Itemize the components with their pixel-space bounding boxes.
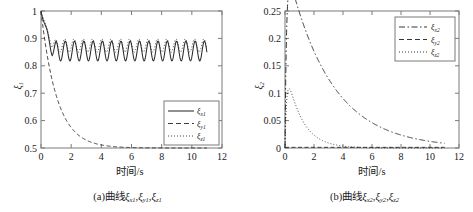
x-tick-label: 12	[217, 151, 227, 162]
panel-a-ylabel: ξ1	[12, 66, 24, 106]
y-tick-label: 0.05	[264, 115, 282, 126]
y-tick-label: 0.1	[269, 88, 282, 99]
x-tick-label: 6	[370, 151, 375, 162]
panel-b-ylabel: ξ2	[253, 66, 265, 106]
panel-a-caption: (a)曲线ξx1,ξy1,ξz1	[20, 188, 235, 203]
plot-a: 0246810120.50.60.70.80.91ξx1ξy1ξz1	[0, 0, 237, 178]
x-tick-label: 8	[159, 151, 164, 162]
x-tick-label: 10	[187, 151, 197, 162]
y-tick-label: 0	[276, 143, 281, 154]
legend-box	[395, 17, 455, 61]
x-tick-label: 6	[129, 151, 134, 162]
series-xi-x1	[41, 12, 207, 61]
y-tick-label: 0.7	[25, 88, 38, 99]
x-tick-label: 10	[425, 151, 435, 162]
panel-a-caption-prefix: (a)曲线	[93, 191, 125, 202]
y-tick-label: 0.15	[264, 60, 282, 71]
x-tick-label: 4	[99, 151, 104, 162]
x-tick-label: 0	[283, 151, 288, 162]
y-tick-label: 0.25	[264, 6, 282, 17]
x-tick-label: 2	[69, 151, 74, 162]
panel-b-caption: (b)曲线ξx2,ξy2,ξz2	[257, 188, 472, 203]
x-tick-label: 2	[312, 151, 317, 162]
panel-a-xlabel: 时间/s	[40, 163, 220, 178]
y-tick-label: 0.5	[25, 143, 38, 154]
x-tick-label: 0	[39, 151, 44, 162]
x-tick-label: 4	[341, 151, 346, 162]
plot-b: 02468101200.050.10.150.20.25ξx2ξy2ξz2	[237, 0, 473, 178]
panel-a-legend[interactable]: ξx1ξy1ξz1	[164, 101, 219, 145]
y-tick-label: 1	[32, 6, 37, 17]
panel-b-xlabel: 时间/s	[282, 163, 462, 178]
series-xi-z1	[41, 12, 207, 52]
panel-a: 0246810120.50.60.70.80.91ξx1ξy1ξz1 ξ1 时间…	[0, 0, 237, 212]
legend-box	[164, 101, 219, 145]
y-tick-label: 0.9	[25, 33, 38, 44]
panel-b-caption-prefix: (b)曲线	[330, 191, 362, 202]
panel-b-legend[interactable]: ξx2ξy2ξz2	[395, 17, 455, 61]
y-tick-label: 0.8	[25, 60, 38, 71]
y-tick-label: 0.6	[25, 115, 38, 126]
x-tick-label: 8	[399, 151, 404, 162]
panel-b: 02468101200.050.10.150.20.25ξx2ξy2ξz2 ξ2…	[237, 0, 473, 212]
figure-container: 0246810120.50.60.70.80.91ξx1ξy1ξz1 ξ1 时间…	[0, 0, 473, 212]
y-tick-label: 0.2	[269, 33, 282, 44]
x-tick-label: 12	[454, 151, 464, 162]
